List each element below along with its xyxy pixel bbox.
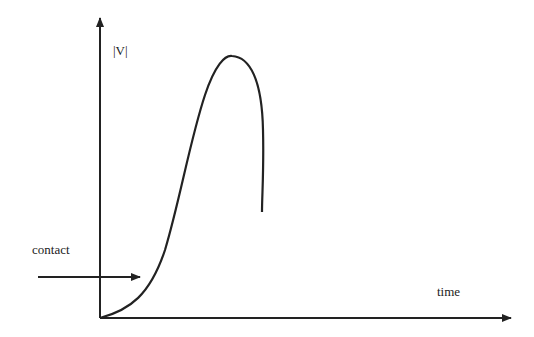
contact-label: contact [32,243,70,256]
y-axis-label: |V| [113,44,128,57]
velocity-curve [100,56,263,318]
x-axis-label: time [437,285,460,298]
